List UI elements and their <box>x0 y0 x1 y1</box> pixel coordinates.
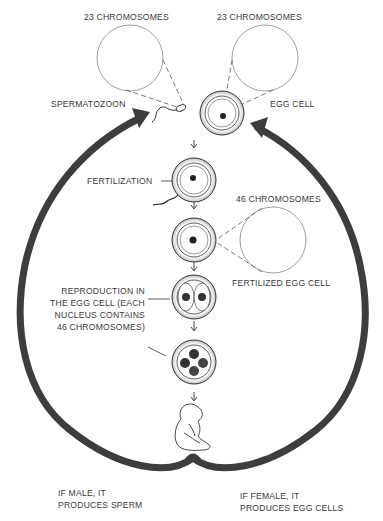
egg-chromosomes-label: 23 CHROMOSOMES <box>217 11 302 23</box>
female-label: IF FEMALE, IT PRODUCES EGG CELLS <box>240 490 343 514</box>
right-cycle-arrow <box>193 128 365 468</box>
egg-cell-label: EGG CELL <box>270 98 315 110</box>
fertilized-egg-cell-icon <box>172 218 216 262</box>
sperm-chromosome-circle <box>97 25 163 91</box>
male-label: IF MALE, IT PRODUCES SPERM <box>58 487 142 511</box>
egg-cell-icon <box>200 91 244 135</box>
fertilized-egg-cell-label: FERTILIZED EGG CELL <box>232 277 330 289</box>
sperm-chromosomes-label: 23 CHROMOSOMES <box>84 11 169 23</box>
four-cell-division-icon <box>148 340 216 384</box>
spermatozoon-label: SPERMATOZOON <box>51 98 126 110</box>
fertilized-chromosomes-label: 46 CHROMOSOMES <box>236 193 321 205</box>
two-cell-division-icon <box>148 275 216 319</box>
egg-chromosome-circle <box>232 25 298 91</box>
fertilization-label: FERTILIZATION <box>87 175 152 187</box>
embryo-icon <box>175 404 210 451</box>
spermatozoon-icon <box>152 103 187 122</box>
reproduction-label: REPRODUCTION IN THE EGG CELL (EACH NUCLE… <box>50 285 145 333</box>
fertilized-chromosome-circle <box>240 207 306 273</box>
bottom-notch <box>186 455 200 460</box>
life-cycle-diagram <box>0 0 383 521</box>
fertilization-cell-icon <box>153 158 216 205</box>
